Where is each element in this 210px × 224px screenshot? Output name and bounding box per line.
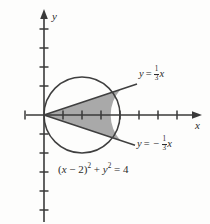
y-axis-arrow <box>40 9 48 19</box>
circle-eq-equals: = <box>111 163 123 175</box>
upper-line-lhs: y <box>139 68 144 79</box>
math-figure: y x y=13x y=−13x (x − 2)2 + y2 = 4 <box>0 0 210 224</box>
circle-eq-value: 4 <box>123 163 129 175</box>
lower-line-minus-sign: − <box>152 138 162 149</box>
circle-equation-label: (x − 2)2 + y2 = 4 <box>58 163 128 175</box>
lower-line-equals: = <box>142 138 152 149</box>
lower-line-equation-label: y=−13x <box>137 136 172 152</box>
lower-line-variable: x <box>167 138 172 149</box>
circle-eq-plus: + <box>91 163 103 175</box>
figure-canvas: y x <box>0 0 210 224</box>
upper-line-variable: x <box>159 68 164 79</box>
circle-eq-minus: − <box>67 163 79 175</box>
upper-line-equation-label: y=13x <box>139 66 164 82</box>
lower-line-lhs: y <box>137 138 142 149</box>
upper-line-equals: = <box>144 68 154 79</box>
x-axis-label: x <box>194 119 200 131</box>
x-axis-arrow <box>192 111 202 119</box>
y-axis-label: y <box>51 10 57 22</box>
